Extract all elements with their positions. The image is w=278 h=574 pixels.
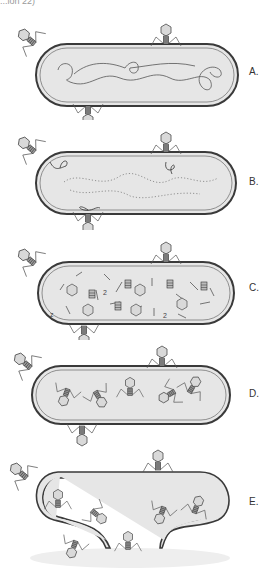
panel-b: B. [0, 110, 278, 230]
panel-label-b: B. [249, 176, 258, 187]
panel-label-e: E. [249, 496, 258, 507]
bacterium-dna-injection-illustration [0, 110, 278, 230]
panel-e: E. [0, 440, 278, 574]
bacterium-phage-assembly-illustration [0, 330, 278, 450]
svg-text:2: 2 [163, 312, 167, 319]
panel-label-a: A. [249, 66, 258, 77]
panel-label-c: C. [249, 282, 259, 293]
panel-c: 2 2 z C. [0, 220, 278, 340]
panel-a: A. [0, 0, 278, 120]
panel-d: D. [0, 330, 278, 450]
bacterium-with-chromosome-illustration [0, 0, 278, 120]
svg-text:z: z [50, 311, 54, 318]
bacterium-lysis-illustration [0, 440, 278, 574]
svg-text:2: 2 [103, 289, 107, 296]
panel-label-d: D. [249, 388, 259, 399]
bacterium-component-synthesis-illustration: 2 2 z [0, 220, 278, 340]
